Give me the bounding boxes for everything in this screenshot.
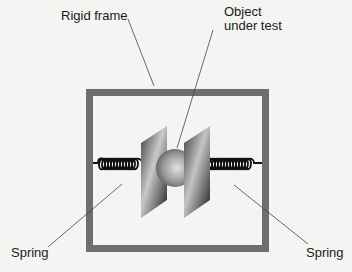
right-spring — [202, 159, 262, 170]
label-object-line1: Object — [224, 4, 262, 19]
label-rigid-frame: Rigid frame — [61, 8, 127, 23]
leader-spring-left — [48, 184, 122, 247]
leader-rigid-frame — [128, 19, 154, 86]
label-spring-right: Spring — [306, 245, 344, 260]
right-plate — [184, 126, 210, 218]
leader-spring-right — [234, 185, 308, 244]
label-object-line2: under test — [224, 18, 282, 33]
label-spring-left: Spring — [11, 245, 49, 260]
diagram-graphic — [0, 0, 352, 272]
left-spring — [93, 159, 142, 170]
diagram-canvas: Rigid frame Object under test Spring Spr… — [0, 0, 352, 272]
